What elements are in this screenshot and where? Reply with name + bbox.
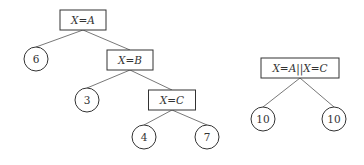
test-label: X=A — [70, 14, 95, 26]
test-label: X=B — [117, 54, 142, 66]
leaf-node: 10 — [251, 107, 275, 131]
tree-edge — [300, 78, 334, 107]
leaf-node: 7 — [195, 125, 219, 149]
tree-edge — [130, 70, 172, 90]
tree-edge — [144, 110, 172, 125]
leaf-value: 4 — [141, 131, 148, 143]
test-label: X=C — [159, 94, 184, 106]
tree-edge — [83, 30, 130, 50]
test-node: X=B — [107, 50, 153, 70]
leaf-node: 10 — [322, 107, 346, 131]
tree-edge — [172, 110, 207, 125]
test-node: X=A — [60, 10, 106, 30]
leaf-node: 3 — [75, 88, 99, 112]
tree-edge — [36, 30, 83, 47]
leaf-value: 3 — [84, 94, 91, 106]
test-node: X=C — [149, 90, 196, 110]
leaf-value: 6 — [33, 53, 40, 65]
left-tree: X=A6X=B3X=C47 — [24, 10, 219, 149]
leaf-node: 6 — [24, 47, 48, 71]
test-label: X=A||X=C — [271, 62, 327, 76]
test-node: X=A||X=C — [261, 58, 339, 78]
decision-tree-diagram: X=A6X=B3X=C47X=A||X=C1010 — [0, 0, 364, 165]
leaf-value: 10 — [327, 113, 340, 125]
tree-edge — [87, 70, 130, 88]
right-tree: X=A||X=C1010 — [251, 58, 346, 131]
tree-edge — [263, 78, 300, 107]
leaf-value: 7 — [204, 131, 211, 143]
leaf-value: 10 — [256, 113, 269, 125]
leaf-node: 4 — [132, 125, 156, 149]
